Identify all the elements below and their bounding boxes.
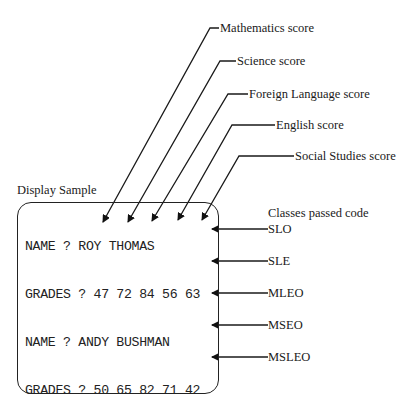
science-pointer bbox=[128, 61, 236, 222]
code-sle: SLE bbox=[268, 254, 290, 268]
screen-line: GRADES ? 50 65 82 71 42 bbox=[25, 383, 200, 399]
mathematics-pointer bbox=[103, 28, 219, 222]
screen-line: NAME ? ANDY BUSHMAN bbox=[25, 335, 200, 351]
classes-passed-header: Classes passed code bbox=[268, 206, 369, 220]
code-mseo: MSEO bbox=[268, 318, 303, 332]
code-slo: SLO bbox=[268, 222, 292, 236]
code-msleo: MSLEO bbox=[268, 350, 310, 364]
label-english: English score bbox=[276, 118, 344, 132]
label-science: Science score bbox=[237, 54, 305, 68]
display-sample-title: Display Sample bbox=[17, 183, 97, 197]
code-mleo: MLEO bbox=[268, 286, 303, 300]
screen-line: GRADES ? 47 72 84 56 63 bbox=[25, 287, 200, 303]
label-mathematics: Mathematics score bbox=[220, 21, 314, 35]
label-social-studies: Social Studies score bbox=[295, 149, 396, 163]
screen-line: NAME ? ROY THOMAS bbox=[25, 239, 200, 255]
display-screen: NAME ? ROY THOMAS GRADES ? 47 72 84 56 6… bbox=[25, 207, 200, 410]
label-foreign-language: Foreign Language score bbox=[249, 87, 370, 101]
